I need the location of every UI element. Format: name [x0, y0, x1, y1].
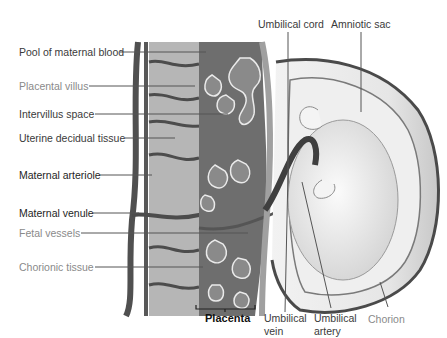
label-placenta: Placenta	[205, 312, 250, 324]
label-intervillus-space: Intervillus space	[19, 108, 94, 120]
label-chorion: Chorion	[368, 313, 405, 325]
label-fetal-vessels: Fetal vessels	[19, 227, 80, 239]
label-maternal-arteriole: Maternal arteriole	[19, 169, 101, 181]
label-uterine-decidual-tissue: Uterine decidual tissue	[19, 132, 125, 144]
label-amniotic-sac: Amniotic sac	[331, 18, 391, 30]
label-chorionic-tissue: Chorionic tissue	[19, 261, 94, 273]
label-umbilical-cord: Umbilical cord	[258, 18, 324, 30]
placenta-diagram: Pool of maternal blood Placental villus …	[0, 0, 447, 338]
label-umbilical-artery-line2: artery	[314, 325, 341, 337]
label-umbilical-vein-line1: Umbilical	[264, 312, 307, 324]
label-placental-villus: Placental villus	[19, 80, 88, 92]
uterine-wall	[126, 42, 146, 316]
label-umbilical-vein-line2: vein	[264, 325, 283, 337]
label-umbilical-artery-line1: Umbilical	[314, 312, 357, 324]
label-pool-of-maternal-blood: Pool of maternal blood	[19, 46, 124, 58]
label-maternal-venule: Maternal venule	[19, 207, 94, 219]
